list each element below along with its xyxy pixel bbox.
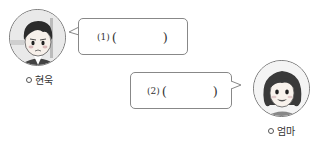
name-label-mom: 엄마 (268, 123, 295, 138)
open-paren: ( (162, 83, 167, 98)
speech-tail-right-icon (230, 80, 242, 92)
open-paren: ( (112, 29, 117, 44)
name-label-hyunwook: 현욱 (26, 72, 53, 87)
woman-face-icon (254, 61, 310, 117)
avatar-hyunwook (9, 9, 66, 66)
speech-bubble-1: (1) ( ) (78, 18, 188, 55)
character-name: 엄마 (277, 123, 295, 138)
close-paren: ) (163, 29, 168, 44)
circle-bullet-icon (26, 77, 32, 83)
circle-bullet-icon (268, 128, 274, 134)
close-paren: ) (213, 83, 218, 98)
speech-bubble-2: (2) ( ) (130, 72, 232, 109)
question-number: (2) (147, 86, 160, 96)
avatar-mom (253, 60, 310, 117)
boy-face-icon (10, 10, 66, 66)
question-number: (1) (97, 32, 110, 42)
character-name: 현욱 (35, 72, 53, 87)
